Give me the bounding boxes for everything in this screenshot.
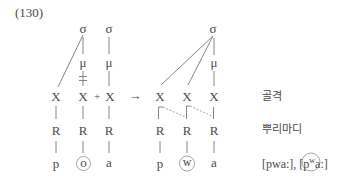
tier-label-output: [pwa:], [pwa:] xyxy=(262,157,328,170)
root-node: R xyxy=(156,124,165,137)
association-line-sigma-x1 xyxy=(161,36,213,85)
skeleton-slot: X xyxy=(155,90,164,103)
dashed-spreading-line xyxy=(163,107,185,117)
root-node: R xyxy=(183,124,192,137)
output-form-labialized: [pwa:] xyxy=(299,157,327,171)
segment: a xyxy=(106,156,112,169)
tier-label-skeleton: 골격 xyxy=(262,91,282,102)
syllable-node: σ xyxy=(105,22,112,35)
mora-node: μ xyxy=(106,56,113,69)
segment-circled: o xyxy=(80,156,87,169)
tier-label-root: 뿌리마디 xyxy=(262,124,302,135)
root-node: R xyxy=(105,124,114,137)
skeleton-slot: X xyxy=(105,90,114,103)
root-node: R xyxy=(52,124,61,137)
segment: a xyxy=(211,156,217,169)
skeleton-slot: X xyxy=(182,90,191,103)
skeleton-slot: X xyxy=(78,90,87,103)
mora-node: μ xyxy=(211,56,218,69)
root-node: R xyxy=(79,124,88,137)
root-node: R xyxy=(210,124,219,137)
segment: p xyxy=(157,157,164,170)
example-number: (130) xyxy=(15,6,43,19)
segment: p xyxy=(53,157,60,170)
output-form-plain: [pwa:], xyxy=(262,157,296,171)
plus-sign: + xyxy=(94,91,100,102)
segment-circled: w xyxy=(183,156,192,168)
skeleton-slot: X xyxy=(209,90,218,103)
mora-node: μ xyxy=(80,56,87,69)
syllable-node: σ xyxy=(79,22,86,35)
arrow-right-icon: → xyxy=(129,89,142,102)
dashed-spreading-line xyxy=(190,106,212,116)
syllable-node: σ xyxy=(209,22,216,35)
association-line-sigma-x2 xyxy=(188,36,213,85)
skeleton-slot: X xyxy=(51,90,60,103)
